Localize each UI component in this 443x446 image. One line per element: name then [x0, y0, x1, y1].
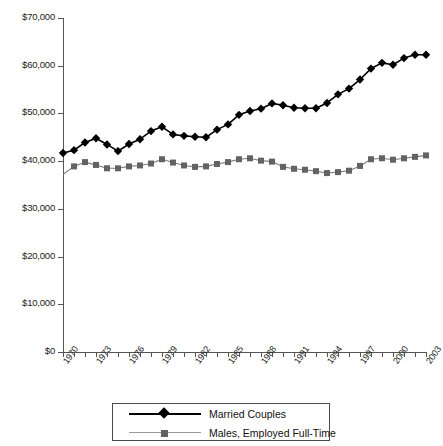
x-tick-mark — [74, 353, 75, 357]
x-tick-mark — [206, 353, 207, 357]
legend-item-married-couples: Married Couples — [113, 404, 329, 423]
y-tick-mark — [58, 66, 63, 67]
x-tick-mark — [349, 353, 350, 357]
x-tick-mark — [107, 353, 108, 357]
legend-sample-married-couples — [129, 407, 201, 421]
x-tick-mark — [404, 353, 405, 357]
y-tick-label: $10,000 — [22, 297, 55, 308]
legend-item-males-employed-full-time: Males, Employed Full-Time — [113, 423, 329, 442]
x-tick-mark — [173, 353, 174, 357]
square-marker-icon — [161, 430, 168, 437]
y-tick-mark — [58, 113, 63, 114]
y-tick-label: $30,000 — [22, 202, 55, 213]
x-tick-mark — [283, 353, 284, 357]
x-tick-mark — [415, 353, 416, 357]
x-tick-mark — [338, 353, 339, 357]
x-tick-mark — [118, 353, 119, 357]
x-tick-mark — [184, 353, 185, 357]
x-tick-mark — [140, 353, 141, 357]
plot-area — [63, 18, 426, 352]
y-tick-label: $60,000 — [22, 59, 55, 70]
y-tick-mark — [58, 304, 63, 305]
y-tick-mark — [58, 257, 63, 258]
x-tick-mark — [382, 353, 383, 357]
legend-sample-males-employed-full-time — [129, 426, 201, 440]
x-tick-mark — [316, 353, 317, 357]
y-tick-label: $20,000 — [22, 250, 55, 261]
y-tick-label: $70,000 — [22, 11, 55, 22]
y-tick-label: $0 — [45, 345, 55, 356]
diamond-marker-icon — [158, 407, 169, 418]
x-tick-mark — [371, 353, 372, 357]
legend-label-males-employed-full-time: Males, Employed Full-Time — [209, 427, 336, 439]
x-tick-mark — [151, 353, 152, 357]
x-tick-mark — [85, 353, 86, 357]
legend-label-married-couples: Married Couples — [209, 408, 286, 420]
legend: Married Couples Males, Employed Full-Tim… — [112, 403, 330, 441]
y-tick-mark — [58, 161, 63, 162]
y-tick-label: $40,000 — [22, 154, 55, 165]
x-tick-mark — [250, 353, 251, 357]
x-tick-mark — [272, 353, 273, 357]
y-tick-mark — [58, 18, 63, 19]
y-tick-label: $50,000 — [22, 106, 55, 117]
x-tick-label: 2003 — [424, 344, 443, 365]
x-tick-mark — [239, 353, 240, 357]
y-tick-mark — [58, 209, 63, 210]
x-tick-mark — [217, 353, 218, 357]
x-tick-mark — [305, 353, 306, 357]
